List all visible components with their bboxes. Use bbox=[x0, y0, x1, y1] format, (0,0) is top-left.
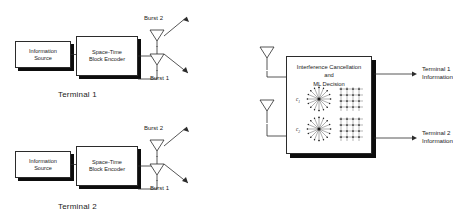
information-source-line2: Source bbox=[34, 55, 52, 61]
terminal-1-caption: Terminal 1 bbox=[58, 90, 97, 99]
encoder-line2: Block Encoder bbox=[89, 56, 125, 62]
propagation-arrow-burst-1 bbox=[162, 160, 200, 190]
output-label-terminal-1: Terminal 1 Information bbox=[422, 65, 453, 82]
output-label-terminal-2: Terminal 2 Information bbox=[422, 129, 453, 146]
output-terminal-1-line2: Information bbox=[422, 73, 453, 80]
propagation-arrow-burst-2 bbox=[160, 122, 196, 150]
information-source-box[interactable]: Information Source bbox=[15, 151, 71, 178]
transmitter-terminal-1: Information Source Space-Time Block Enco… bbox=[0, 0, 222, 112]
information-source-text: Information Source bbox=[29, 158, 57, 172]
constellation-label-c1: c1 bbox=[296, 96, 300, 104]
encoder-text: Space-Time Block Encoder bbox=[89, 159, 125, 173]
transmitter-terminal-2: Information Source Space-Time Block Enco… bbox=[0, 110, 222, 224]
information-source-line1: Information bbox=[29, 158, 57, 164]
output-arrow-terminal-2 bbox=[374, 131, 420, 145]
propagation-arrow-burst-2 bbox=[160, 12, 196, 40]
output-terminal-2-line2: Information bbox=[422, 137, 453, 144]
space-time-block-encoder-box[interactable]: Space-Time Block Encoder bbox=[76, 36, 138, 76]
encoder-text: Space-Time Block Encoder bbox=[89, 49, 125, 63]
encoder-line1: Space-Time bbox=[92, 159, 122, 165]
terminal-2-caption: Terminal 2 bbox=[58, 202, 97, 211]
encoder-line2: Block Encoder bbox=[89, 166, 125, 172]
propagation-arrow-burst-1 bbox=[162, 50, 200, 80]
receiver-box-line2: and bbox=[324, 72, 334, 78]
receiver-box-text: Interference Cancellation and ML Decisio… bbox=[297, 63, 361, 88]
information-source-box[interactable]: Information Source bbox=[15, 41, 71, 68]
constellation-c2-subscript: 2 bbox=[298, 130, 300, 134]
information-source-text: Information Source bbox=[29, 48, 57, 62]
information-source-line1: Information bbox=[29, 48, 57, 54]
constellation-label-c2: c2 bbox=[296, 126, 300, 134]
constellation-c1-subscript: 1 bbox=[298, 100, 300, 104]
output-arrow-terminal-1 bbox=[374, 67, 420, 81]
constellation-qam-grid-c2 bbox=[338, 116, 364, 142]
output-terminal-1-line1: Terminal 1 bbox=[422, 65, 451, 72]
output-terminal-2-line1: Terminal 2 bbox=[422, 129, 451, 136]
receiver-box-line1: Interference Cancellation bbox=[297, 64, 361, 70]
space-time-block-encoder-box[interactable]: Space-Time Block Encoder bbox=[76, 146, 138, 186]
encoder-line1: Space-Time bbox=[92, 49, 122, 55]
receiver-section: Interference Cancellation and ML Decisio… bbox=[252, 40, 443, 185]
constellation-psk-star-c1 bbox=[306, 86, 332, 112]
constellation-qam-grid-c1 bbox=[338, 86, 364, 112]
information-source-line2: Source bbox=[34, 165, 52, 171]
constellation-psk-star-c2 bbox=[306, 116, 332, 142]
